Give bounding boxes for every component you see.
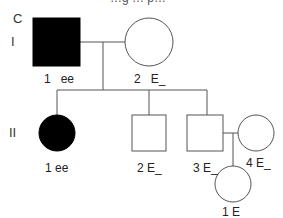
label-II-4: 4 E_ (246, 156, 271, 170)
individual-II-1-affected-female (39, 115, 75, 151)
label-II-3: 3 E_ (193, 161, 218, 175)
label-I-1: 1 ee (44, 72, 74, 86)
individual-II-3-male (187, 115, 223, 151)
individual-III-1-female (215, 166, 251, 202)
pedigree-chart (0, 0, 283, 218)
individual-I-1-affected-male (33, 18, 80, 66)
label-III-1: 1 E_ (222, 205, 247, 218)
label-II-2: 2 E_ (137, 161, 162, 175)
individual-I-2-female (125, 18, 173, 66)
label-II-1: 1 ee (45, 161, 68, 175)
label-I-2: 2 E_ (134, 72, 165, 86)
individual-II-4-female (238, 115, 274, 151)
individual-II-2-male (132, 115, 166, 151)
